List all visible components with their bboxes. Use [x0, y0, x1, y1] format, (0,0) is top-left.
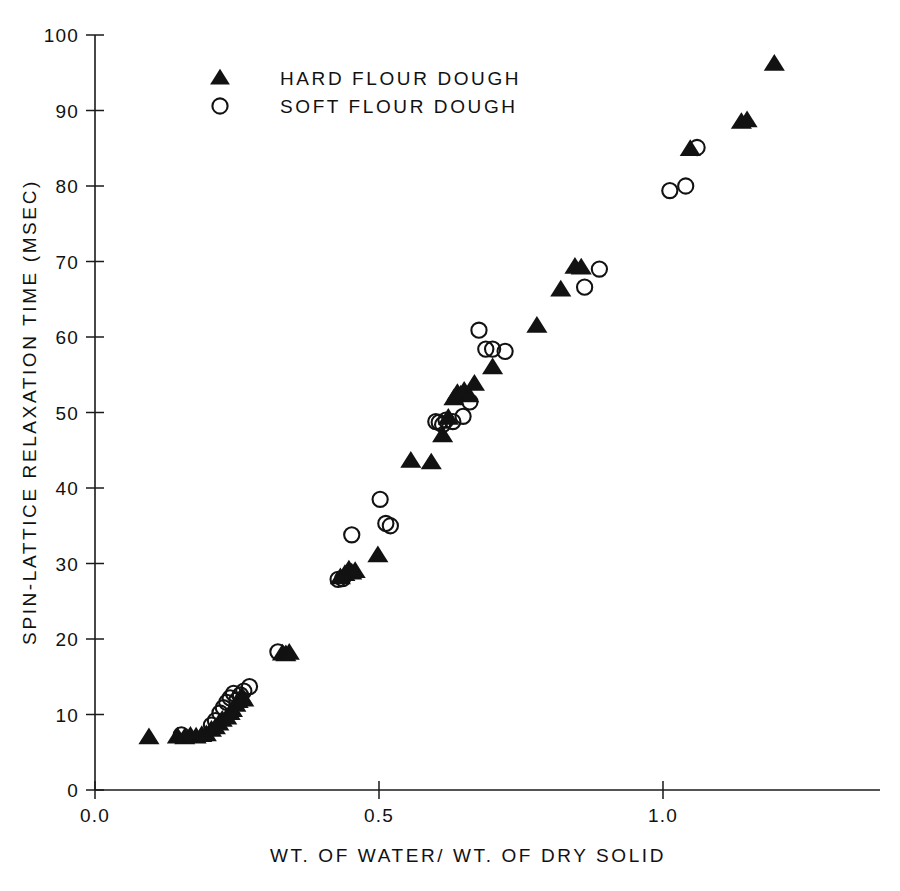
x-axis-tick-labels: 0.00.51.0: [80, 805, 678, 826]
x-tick-label-0.5: 0.5: [364, 805, 394, 826]
y-tick-label-80: 80: [55, 176, 79, 197]
y-tick-label-40: 40: [55, 478, 79, 499]
legend-label-0: HARD FLOUR DOUGH: [280, 68, 521, 89]
data-point: [367, 546, 388, 563]
legend: HARD FLOUR DOUGHSOFT FLOUR DOUGH: [210, 68, 521, 117]
y-tick-label-50: 50: [55, 403, 79, 424]
y-tick-label-0: 0: [67, 780, 79, 801]
data-point: [764, 54, 785, 71]
series-hard-flour-dough: [138, 54, 784, 744]
y-tick-label-30: 30: [55, 554, 79, 575]
x-axis-title: WT. OF WATER/ WT. OF DRY SOLID: [270, 845, 666, 866]
data-point: [400, 451, 421, 468]
y-tick-label-60: 60: [55, 327, 79, 348]
data-point: [662, 183, 677, 198]
x-axis: 0.00.51.0: [80, 781, 880, 826]
data-point: [592, 261, 607, 276]
x-tick-label-0.0: 0.0: [80, 805, 110, 826]
y-tick-label-20: 20: [55, 629, 79, 650]
legend-triangle-icon: [210, 69, 230, 85]
data-point: [138, 727, 159, 744]
data-point: [577, 280, 592, 295]
x-tick-label-1.0: 1.0: [648, 805, 678, 826]
legend-circle-icon: [212, 98, 227, 113]
data-point: [678, 178, 693, 193]
data-point: [526, 316, 547, 333]
scatter-plot-figure: 0102030405060708090100 0.00.51.0 HARD FL…: [0, 0, 900, 891]
data-point: [550, 280, 571, 297]
data-point: [464, 374, 485, 391]
y-tick-label-70: 70: [55, 252, 79, 273]
data-point: [373, 492, 388, 507]
data-point: [471, 323, 486, 338]
data-point: [383, 518, 398, 533]
data-point: [344, 527, 359, 542]
y-tick-label-10: 10: [55, 705, 79, 726]
plot-canvas: 0102030405060708090100 0.00.51.0 HARD FL…: [0, 0, 900, 891]
y-tick-label-90: 90: [55, 101, 79, 122]
y-axis-tick-labels: 0102030405060708090100: [44, 25, 79, 801]
data-point: [482, 358, 503, 375]
legend-label-1: SOFT FLOUR DOUGH: [280, 96, 518, 117]
y-axis-title: SPIN-LATTICE RELAXATION TIME (MSEC): [19, 179, 40, 645]
y-tick-label-100: 100: [44, 25, 79, 46]
data-point: [421, 453, 442, 470]
y-axis: 0102030405060708090100: [44, 25, 104, 801]
